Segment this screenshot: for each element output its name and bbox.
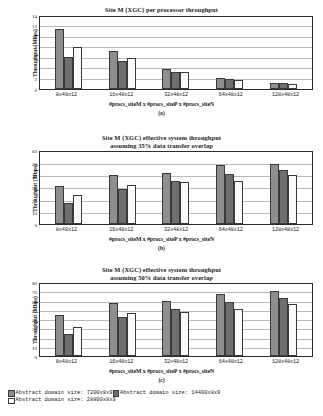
panel-caption-b: (b) bbox=[0, 245, 323, 251]
legend-label: Abstract domain size: 14400x8x9 bbox=[120, 390, 220, 397]
bar-group bbox=[96, 17, 150, 89]
bar bbox=[279, 298, 288, 357]
y-axis-tick-label: 50 bbox=[32, 161, 37, 166]
x-axis-tick-label: 16x48x12 bbox=[94, 92, 149, 98]
bar bbox=[225, 174, 234, 224]
y-axis-ticks-a: 02468101214 bbox=[24, 16, 38, 90]
plot-area-b: Throughput (Mbps)01020304050608x48x1216x… bbox=[0, 151, 323, 225]
chart-title-a: Site M (XGC) per processor throughput bbox=[12, 6, 312, 14]
x-axis-tick-label: 128x48x12 bbox=[258, 92, 313, 98]
y-axis-tick-label: 14 bbox=[32, 13, 37, 18]
x-axis-title-a: #procs_siteM x #procs_siteP x #procs_sit… bbox=[0, 101, 323, 107]
chart-title-b: Site M (XGC) effective system throughput bbox=[12, 134, 312, 142]
bar bbox=[234, 181, 243, 224]
y-axis-title-holder: Throughput (Mbps) bbox=[14, 16, 24, 90]
bar-groups bbox=[40, 17, 312, 89]
legend-row-top: Abstract domain size: 7200x8x9 Abstract … bbox=[8, 390, 323, 397]
x-axis-tick-label: 32x48x12 bbox=[149, 227, 204, 233]
bar bbox=[64, 334, 73, 357]
bar-group bbox=[42, 17, 96, 89]
bar-groups bbox=[40, 284, 312, 356]
chart-panel-a: Site M (XGC) per processor throughputThr… bbox=[0, 6, 323, 132]
bar bbox=[171, 72, 180, 89]
bar-group bbox=[203, 152, 257, 224]
y-axis-title-holder: Throughput (Mbps) bbox=[14, 151, 24, 225]
bar bbox=[180, 182, 189, 224]
y-axis-tick-label: 30 bbox=[32, 186, 37, 191]
x-axis-ticks-a: 8x48x1216x48x1232x48x1264x48x12128x48x12 bbox=[39, 92, 313, 98]
y-axis-tick-label: 40 bbox=[32, 173, 37, 178]
y-axis-tick-label: 60 bbox=[32, 149, 37, 154]
bar bbox=[288, 304, 297, 356]
bar bbox=[180, 312, 189, 356]
bar bbox=[216, 78, 225, 89]
y-axis-tick-label: 50 bbox=[32, 308, 37, 313]
bar bbox=[109, 51, 118, 89]
chart-subtitle-c: assuming 50% data transfer overlap bbox=[12, 274, 312, 282]
y-axis-tick-label: 10 bbox=[32, 345, 37, 350]
bar bbox=[73, 327, 82, 356]
bar-group bbox=[149, 152, 203, 224]
y-axis-tick-label: 0 bbox=[35, 223, 38, 228]
y-axis-tick-label: 60 bbox=[32, 299, 37, 304]
bar bbox=[162, 69, 171, 89]
bar bbox=[118, 317, 127, 357]
x-axis-title-b: #procs_siteM x #procs_siteP x #procs_sit… bbox=[0, 236, 323, 242]
bar-group bbox=[42, 152, 96, 224]
x-axis-tick-label: 128x48x12 bbox=[258, 359, 313, 365]
legend-item-series2: Abstract domain size: 28800x8x9 bbox=[8, 397, 116, 404]
bar-group bbox=[256, 17, 310, 89]
bar bbox=[270, 291, 279, 356]
bar bbox=[270, 83, 279, 89]
bar-group bbox=[96, 152, 150, 224]
x-axis-tick-label: 32x48x12 bbox=[149, 92, 204, 98]
y-axis-tick-label: 8 bbox=[35, 45, 38, 50]
y-axis-ticks-c: 01020304050607080 bbox=[24, 283, 38, 357]
y-axis-tick-label: 0 bbox=[35, 87, 38, 92]
legend-row-bottom: Abstract domain size: 28800x8x9 bbox=[8, 397, 323, 404]
bar bbox=[288, 175, 297, 224]
bar bbox=[171, 181, 180, 224]
bar bbox=[162, 301, 171, 356]
bar-group bbox=[256, 284, 310, 356]
bar-group bbox=[96, 284, 150, 356]
y-axis-tick-label: 12 bbox=[32, 24, 37, 29]
bar bbox=[171, 309, 180, 356]
bar bbox=[109, 175, 118, 224]
chart-title-c: Site M (XGC) effective system throughput bbox=[12, 266, 312, 274]
x-axis-tick-label: 64x48x12 bbox=[203, 359, 258, 365]
legend-label: Abstract domain size: 28800x8x9 bbox=[16, 397, 116, 404]
bar-group bbox=[203, 17, 257, 89]
plot-area-c: Throughput (Mbps)010203040506070808x48x1… bbox=[0, 283, 323, 357]
x-axis-tick-label: 128x48x12 bbox=[258, 227, 313, 233]
y-axis-tick-label: 2 bbox=[35, 77, 38, 82]
y-axis-tick-label: 20 bbox=[32, 198, 37, 203]
panel-caption-c: (c) bbox=[0, 377, 323, 383]
bar-groups bbox=[40, 152, 312, 224]
bar bbox=[127, 313, 136, 356]
y-axis-tick-label: 0 bbox=[35, 355, 38, 360]
bar bbox=[127, 185, 136, 225]
plot-box-a bbox=[39, 16, 313, 90]
bar bbox=[118, 189, 127, 224]
x-axis-tick-label: 8x48x12 bbox=[39, 227, 94, 233]
y-axis-tick-label: 70 bbox=[32, 290, 37, 295]
bar bbox=[162, 173, 171, 224]
bar-group bbox=[256, 152, 310, 224]
bar bbox=[279, 170, 288, 224]
chart-subtitle-b: assuming 35% data transfer overlap bbox=[12, 142, 312, 150]
bar bbox=[270, 164, 279, 225]
bar bbox=[55, 186, 64, 224]
plot-box-b bbox=[39, 151, 313, 225]
legend-item-series1: Abstract domain size: 14400x8x9 bbox=[113, 390, 221, 397]
bar bbox=[73, 195, 82, 224]
bar bbox=[64, 203, 73, 225]
y-axis-tick-label: 40 bbox=[32, 318, 37, 323]
y-axis-tick-label: 10 bbox=[32, 210, 37, 215]
x-axis-tick-label: 8x48x12 bbox=[39, 92, 94, 98]
bar bbox=[288, 84, 297, 89]
plot-area-a: Throughput (Mbps)024681012148x48x1216x48… bbox=[0, 16, 323, 90]
y-axis-tick-label: 10 bbox=[32, 34, 37, 39]
x-axis-tick-label: 64x48x12 bbox=[203, 92, 258, 98]
bar bbox=[234, 80, 243, 89]
